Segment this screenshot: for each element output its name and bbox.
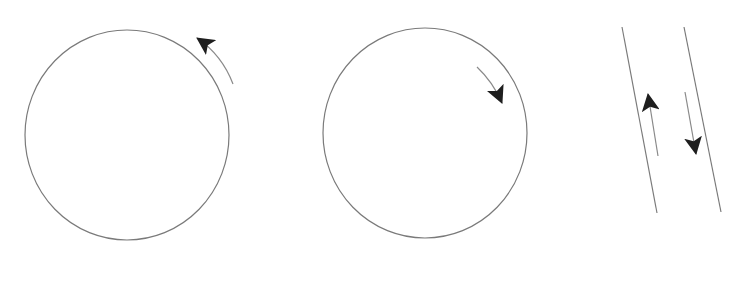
circle-outline <box>25 30 229 240</box>
counterclockwise-arrow-icon <box>197 38 233 84</box>
panel-parallel-lines <box>622 27 721 213</box>
clockwise-arrow-icon <box>477 67 502 103</box>
up-arrow-icon <box>648 94 658 156</box>
circle-outline <box>323 28 527 238</box>
flow-direction-diagram <box>0 0 742 284</box>
panel-clockwise-circle <box>323 28 527 238</box>
panel-counterclockwise-circle <box>25 30 233 240</box>
down-arrow-icon <box>685 92 696 154</box>
